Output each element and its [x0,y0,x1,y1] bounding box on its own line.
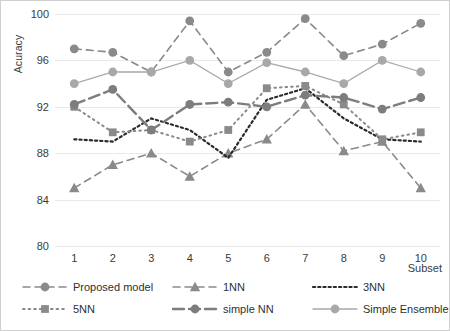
x-tick-label: 1 [71,252,77,264]
legend-label: 1NN [223,281,245,293]
data-point-marker [185,100,194,109]
data-point-marker [339,51,348,60]
data-point-marker [378,56,387,65]
legend-swatch-icon [172,280,218,294]
data-point-marker [301,14,310,23]
series-simple-nn [70,85,425,134]
legend-swatch-icon [312,302,358,316]
legend-label: Simple Ensemble [363,303,449,315]
chart-screenshot: Acuracy Subset 8084889296100 12345678910… [0,0,450,331]
data-point-marker [186,138,194,146]
data-point-marker [378,105,387,114]
series-line [74,60,421,83]
data-point-marker [262,48,271,57]
series-5nn [70,82,424,145]
legend-swatch-icon [22,280,68,294]
data-point-marker [70,44,79,53]
data-point-marker [301,82,309,90]
y-tick-label: 96 [37,54,49,66]
chart-legend: Proposed model1NN3NN5NNsimple NNSimple E… [22,276,434,324]
data-point-marker [185,17,194,26]
data-point-marker [41,305,49,313]
data-point-marker [416,68,425,77]
data-point-marker [191,304,200,313]
series-line [74,88,421,158]
y-tick-label: 100 [31,8,49,20]
data-point-marker [224,126,232,134]
data-point-marker [339,79,348,88]
data-point-marker [224,79,233,88]
legend-item-1nn[interactable]: 1NN [172,276,245,297]
series-line [74,104,421,188]
x-tick-label: 7 [302,252,308,264]
series-simple-ensemble [70,56,425,88]
series-plot [55,14,440,246]
data-point-marker [417,128,425,136]
data-point-marker [416,93,425,102]
x-tick-label: 3 [148,252,154,264]
x-tick-label: 8 [341,252,347,264]
data-point-marker [263,84,271,92]
data-point-marker [70,100,79,109]
legend-swatch-icon [22,302,68,316]
data-point-marker [331,304,340,313]
series-1nn [69,99,426,192]
data-point-marker [301,91,310,100]
legend-item-simple-ensemble[interactable]: Simple Ensemble [312,298,449,319]
x-tick-label: 6 [264,252,270,264]
data-point-marker [339,146,349,155]
legend-label: simple NN [223,303,274,315]
data-point-marker [70,79,79,88]
y-tick-label: 80 [37,240,49,252]
data-point-marker [146,148,156,157]
x-tick-label: 2 [110,252,116,264]
data-point-marker [108,48,117,57]
gridline [55,246,440,247]
y-tick-label: 88 [37,147,49,159]
x-tick-label: 4 [187,252,193,264]
x-tick-label: 5 [225,252,231,264]
data-point-marker [300,99,310,108]
data-point-marker [378,135,386,143]
legend-swatch-icon [172,302,218,316]
data-point-marker [185,56,194,65]
x-tick-label: 9 [379,252,385,264]
data-point-marker [41,282,50,291]
legend-label: Proposed model [73,281,153,293]
data-point-marker [108,85,117,94]
legend-item-3nn[interactable]: 3NN [312,276,385,297]
data-point-marker [108,68,117,77]
data-point-marker [378,40,387,49]
legend-item-5nn[interactable]: 5NN [22,298,95,319]
data-point-marker [301,68,310,77]
data-point-marker [69,183,79,192]
y-tick-label: 92 [37,101,49,113]
data-point-marker [262,102,271,111]
legend-row: Proposed model1NN3NN [22,276,434,297]
data-point-marker [109,128,117,136]
series-3nn [74,88,421,158]
legend-label: 3NN [363,281,385,293]
data-point-marker [185,171,195,180]
y-tick-label: 84 [37,194,49,206]
legend-item-simple-nn[interactable]: simple NN [172,298,274,319]
data-point-marker [224,68,233,77]
data-point-marker [339,93,348,102]
data-point-marker [262,58,271,67]
series-line [74,19,421,72]
legend-label: 5NN [73,303,95,315]
data-point-marker [224,98,233,107]
legend-row: 5NNsimple NNSimple Ensemble [22,298,434,319]
y-axis-title: Acuracy [12,24,24,84]
data-point-marker [416,19,425,28]
legend-item-proposed-model[interactable]: Proposed model [22,276,153,297]
legend-swatch-icon [312,280,358,294]
plot-area: 8084889296100 12345678910 [55,14,440,246]
x-tick-label: 10 [415,252,427,264]
data-point-marker [147,126,156,135]
series-line [74,89,421,130]
data-point-marker [147,68,156,77]
